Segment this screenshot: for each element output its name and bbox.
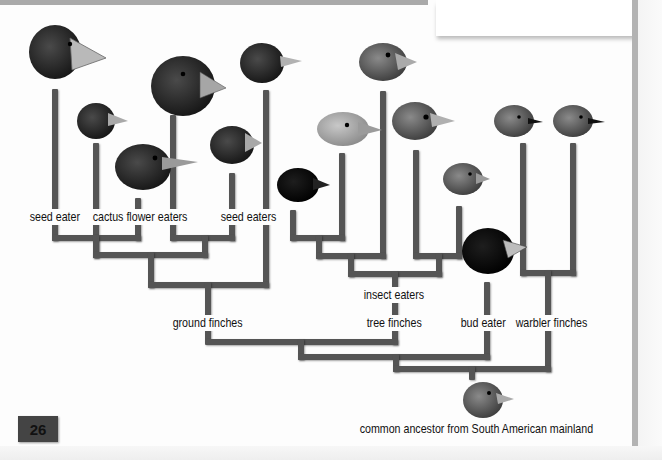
right-page-edge — [638, 0, 662, 460]
top-right-panel — [436, 0, 640, 36]
branch-mangrove-finch — [413, 150, 419, 259]
branch-small-tree-finch — [456, 206, 462, 259]
branch-grey-warbler — [520, 143, 526, 276]
label-cactus-flower-eaters: cactus flower eaters — [91, 209, 189, 225]
branch-sharp-beaked-finch — [229, 173, 235, 241]
finch-head-vegetarian — [462, 228, 527, 274]
label-tree-finches: tree finches — [365, 315, 423, 331]
finch-head-green-warbler — [553, 105, 605, 137]
right-frame-bar — [632, 0, 638, 460]
page-number-badge: 26 — [18, 416, 58, 442]
bottom-page-edge — [0, 446, 662, 460]
label-seed-eaters: seed eaters — [219, 209, 278, 225]
finch-head-grey-warbler — [494, 105, 543, 137]
label-seed-eater: seed eater — [28, 209, 82, 225]
stem-ancestor — [469, 366, 475, 380]
finch-head-small-ground — [77, 103, 128, 139]
label-common-ancestor: common ancestor from South American main… — [358, 421, 595, 437]
finch-head-cactus — [115, 144, 198, 190]
label-ground-finches: ground finches — [171, 315, 244, 331]
finch-head-medium-ground — [240, 43, 302, 83]
finch-head-ancestor — [463, 382, 514, 418]
branch-green-warbler — [570, 143, 576, 276]
label-bud-eater: bud eater — [459, 315, 507, 331]
stem-ground-finches — [205, 282, 211, 342]
finch-heads-layer — [0, 0, 662, 460]
label-insect-eaters: insect eaters — [362, 287, 426, 303]
finch-head-large-insect — [359, 43, 417, 81]
page-number: 26 — [30, 421, 47, 438]
branch-large-insect-finch — [380, 91, 386, 259]
finch-head-mangrove — [392, 102, 455, 140]
finch-head-small-tree — [443, 163, 490, 195]
finch-head-large-cactus — [151, 56, 226, 116]
finch-head-small-insect — [317, 112, 382, 146]
label-warbler-finches: warbler finches — [514, 315, 589, 331]
stem-insect-eaters — [392, 271, 398, 345]
finch-head-large-ground — [29, 25, 106, 79]
branch-medium-ground-finch — [263, 90, 269, 288]
branch-small-insect-finch — [339, 153, 345, 241]
finch-head-woodpecker — [277, 168, 330, 202]
top-frame-bar — [0, 0, 428, 5]
finch-head-sharp-beaked — [210, 126, 262, 164]
